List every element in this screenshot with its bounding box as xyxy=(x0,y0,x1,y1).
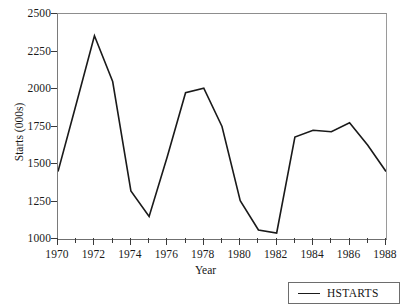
legend-box: HSTARTS xyxy=(288,282,400,304)
x-axis-minor-tick-mark xyxy=(148,238,149,243)
y-axis-title: Starts (000s) xyxy=(13,72,25,192)
x-axis-tick-label: 1974 xyxy=(118,248,141,260)
y-axis-tick-label: 2250 xyxy=(28,45,51,57)
x-axis-minor-tick-mark xyxy=(185,238,186,243)
x-axis-minor-tick-mark xyxy=(330,238,331,243)
x-axis-tick-mark xyxy=(93,238,94,245)
y-axis-tick-label: 1250 xyxy=(28,195,51,207)
x-axis-tick-mark xyxy=(203,238,204,245)
chart-page: 1000125015001750200022502500 Starts (000… xyxy=(0,0,411,308)
x-axis-title: Year xyxy=(0,264,411,276)
x-axis-tick-label: 1980 xyxy=(228,248,251,260)
y-axis-tick-labels: 1000125015001750200022502500 xyxy=(0,0,51,308)
x-axis-minor-tick-mark xyxy=(221,238,222,243)
y-axis-tick-label: 1750 xyxy=(28,120,51,132)
x-axis-minor-tick-mark xyxy=(112,238,113,243)
x-axis-tick-label: 1986 xyxy=(337,248,360,260)
y-axis-tick-label: 1500 xyxy=(28,157,51,169)
x-axis-tick-mark xyxy=(349,238,350,245)
x-axis-tick-label: 1982 xyxy=(264,248,287,260)
x-axis-tick-mark xyxy=(385,238,386,245)
x-axis-minor-tick-mark xyxy=(257,238,258,243)
series-line-hstarts xyxy=(58,36,386,233)
x-axis-tick-label: 1976 xyxy=(155,248,178,260)
x-axis-tick-mark xyxy=(312,238,313,245)
x-axis-minor-tick-mark xyxy=(367,238,368,243)
x-axis-tick-label: 1984 xyxy=(300,248,323,260)
x-axis-minor-tick-mark xyxy=(75,238,76,243)
x-axis-tick-label: 1978 xyxy=(191,248,214,260)
data-line-chart xyxy=(58,14,386,239)
legend-line-swatch-hstarts xyxy=(298,293,320,294)
x-axis-tick-mark xyxy=(130,238,131,245)
legend-label-hstarts: HSTARTS xyxy=(327,287,379,299)
x-axis-tick-label: 1970 xyxy=(45,248,68,260)
x-axis-tick-label: 1972 xyxy=(82,248,105,260)
x-axis-tick-mark xyxy=(57,238,58,245)
x-axis-tick-mark xyxy=(276,238,277,245)
plot-area xyxy=(57,13,387,240)
x-axis-tick-mark xyxy=(239,238,240,245)
y-axis-tick-label: 2000 xyxy=(28,82,51,94)
x-axis-tick-mark xyxy=(166,238,167,245)
x-axis-minor-tick-mark xyxy=(294,238,295,243)
y-axis-tick-label: 2500 xyxy=(28,7,51,19)
x-axis-tick-label: 1988 xyxy=(373,248,396,260)
